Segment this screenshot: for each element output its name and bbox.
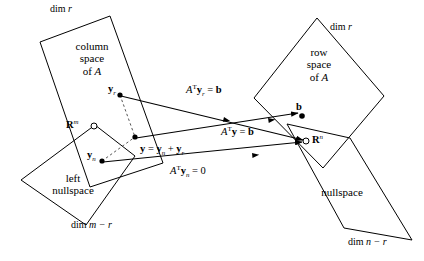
nullspace-dim-label: dim n − r xyxy=(348,236,387,247)
column-space-of-word: of xyxy=(83,65,92,77)
eq-dec-lhs: y xyxy=(140,143,145,154)
eq-mid-relation: = xyxy=(240,126,246,137)
rm-marker-icon xyxy=(91,123,97,129)
yn-subscript: n xyxy=(92,155,95,162)
equation-top: ATyr = b xyxy=(186,84,222,96)
dim-prefix: dim xyxy=(50,3,66,14)
equation-decomposition: y = yn + yr xyxy=(140,143,184,155)
equation-bottom: ATyn = 0 xyxy=(170,165,206,177)
rm-symbol: R xyxy=(66,119,74,130)
column-space-line1: column xyxy=(62,40,122,52)
column-space-line3: of A xyxy=(62,65,122,77)
rn-exponent: n xyxy=(320,133,323,140)
dim-value: r xyxy=(68,3,72,14)
left-nullspace-line1: left xyxy=(37,172,109,184)
column-space-line2: space xyxy=(62,52,122,64)
column-space-dim-label: dim r xyxy=(50,3,72,14)
four-subspaces-diagram: dim r column space of A dim r row space … xyxy=(0,0,424,261)
column-space-label: column space of A xyxy=(62,40,122,77)
rn-label: Rn xyxy=(312,134,323,146)
eq-mid-result: b xyxy=(248,126,254,137)
point-b-marker xyxy=(299,113,305,119)
point-yn-marker xyxy=(99,158,104,163)
column-space-matrix: A xyxy=(95,65,102,77)
row-space-matrix: A xyxy=(322,71,329,83)
left-nullspace-label: left nullspace xyxy=(37,172,109,197)
row-space-dim-label: dim r xyxy=(330,21,352,32)
point-y-marker xyxy=(132,134,137,139)
left-nullspace-dim-label: dim m − r xyxy=(71,219,112,230)
eq-dec-operator: + xyxy=(168,143,174,154)
nullspace-label: nullspace xyxy=(307,186,377,198)
row-space-line2: space xyxy=(289,58,349,70)
eq-top-relation: = xyxy=(207,84,213,95)
row-space-of-word: of xyxy=(310,71,319,83)
left-nullspace-line2: nullspace xyxy=(37,184,109,196)
rn-marker-icon xyxy=(303,138,309,144)
eq-bot-result: 0 xyxy=(201,165,206,176)
rm-label: Rm xyxy=(66,119,79,131)
eq-dec-relation: = xyxy=(148,143,154,154)
dim-value: m − r xyxy=(89,219,112,230)
eq-bot-subscript: n xyxy=(186,171,189,178)
point-yr-marker xyxy=(117,92,122,97)
equation-middle: ATy = b xyxy=(221,126,254,138)
dashed-yr-to-y xyxy=(120,95,135,137)
rm-exponent: m xyxy=(74,118,79,125)
row-space-label: row space of A xyxy=(289,46,349,83)
point-b-label: b xyxy=(296,101,302,113)
arrowhead-mid-bottom xyxy=(252,152,259,158)
point-yn-label: yn xyxy=(87,149,96,161)
row-space-line3: of A xyxy=(289,71,349,83)
point-yr-label: yr xyxy=(108,83,116,95)
eq-dec-term2-sub: r xyxy=(182,149,185,156)
eq-bot-relation: = xyxy=(192,165,198,176)
row-space-line1: row xyxy=(289,46,349,58)
eq-dec-term1-sub: n xyxy=(162,149,165,156)
dim-prefix: dim xyxy=(71,219,87,230)
arrow-y-to-b xyxy=(136,113,298,138)
nullspace-line1: nullspace xyxy=(307,186,377,198)
eq-top-result: b xyxy=(216,84,222,95)
arrow-yr-to-b xyxy=(121,96,303,140)
dim-prefix: dim xyxy=(330,21,346,32)
eq-mid-vector: y xyxy=(232,126,237,137)
arrow-yn-to-origin xyxy=(103,142,302,162)
dim-value: n − r xyxy=(366,236,387,247)
rn-symbol: R xyxy=(312,134,320,145)
yr-subscript: r xyxy=(113,89,116,96)
dim-prefix: dim xyxy=(348,236,364,247)
eq-top-subscript: r xyxy=(202,90,205,97)
dim-value: r xyxy=(348,21,352,32)
dashed-yn-to-y xyxy=(102,137,135,161)
